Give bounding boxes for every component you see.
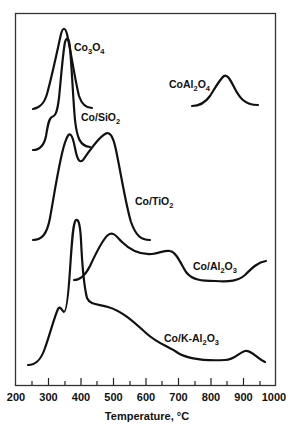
label-cokal2o3: Co/K-Al2O3 [164, 332, 219, 347]
tick-label: 200 [7, 391, 25, 403]
x-axis-tick-labels: 200 300 400 500 600 700 800 900 1000 [7, 391, 286, 403]
tick-label: 400 [72, 391, 90, 403]
label-co3o4: Co3O4 [74, 41, 105, 56]
tpr-chart: 200 300 400 500 600 700 800 900 1000 Tem… [0, 0, 296, 433]
tick-label: 500 [104, 391, 122, 403]
label-cotio2: Co/TiO2 [135, 195, 173, 210]
curve-coal2o3 [74, 234, 266, 282]
x-axis-label: Temperature, °C [105, 410, 189, 422]
tick-label: 800 [202, 391, 220, 403]
curve-cotio2 [33, 133, 150, 240]
x-axis-major-ticks [49, 378, 244, 385]
tick-label: 600 [137, 391, 155, 403]
label-cosio2: Co/SiO2 [81, 111, 120, 126]
tick-label: 700 [169, 391, 187, 403]
tick-label: 1000 [262, 391, 286, 403]
tick-label: 900 [234, 391, 252, 403]
curve-cokal2o3 [28, 220, 265, 365]
tick-label: 300 [39, 391, 57, 403]
label-coal2o3: Co/Al2O3 [193, 260, 237, 275]
label-coal2o4: CoAl2O4 [169, 78, 211, 93]
curve-cosio2 [33, 39, 90, 150]
